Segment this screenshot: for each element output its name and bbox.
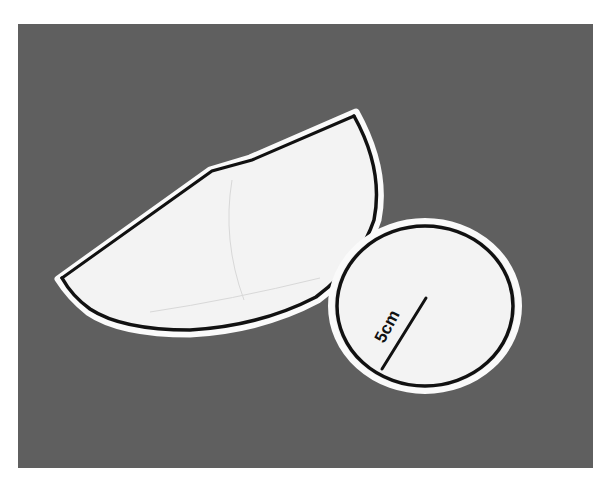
cutouts-illustration: 5cm [0, 0, 611, 486]
circle-cutout: 5cm [331, 221, 519, 391]
